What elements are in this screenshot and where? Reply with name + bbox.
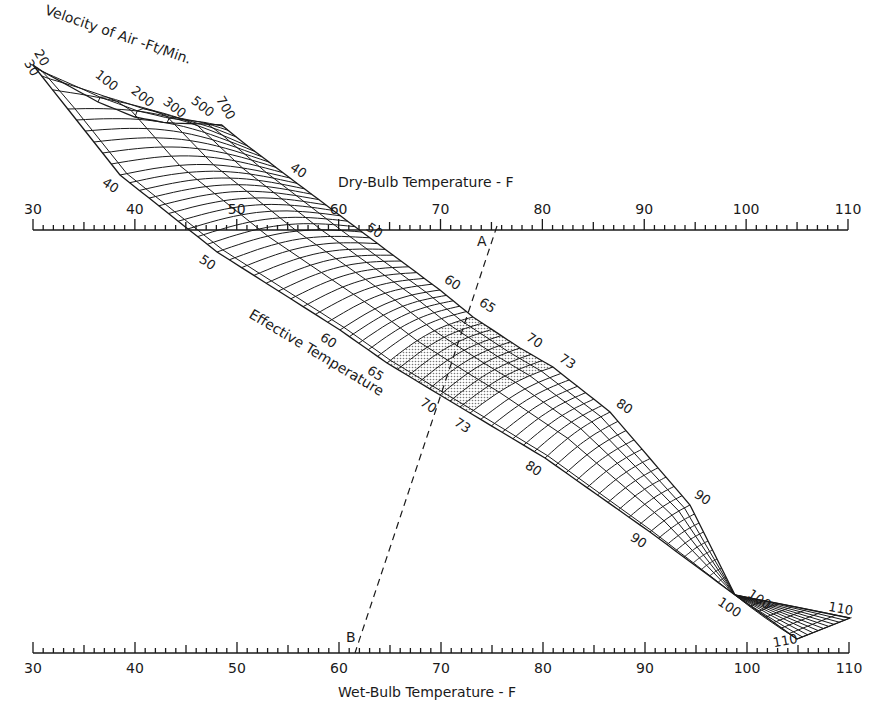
- et-label-ext-lower: 110: [772, 631, 799, 650]
- et-label-upper: 65: [476, 294, 498, 316]
- dry-bulb-axis-tick-label: 100: [733, 201, 760, 217]
- dry-bulb-axis-title: Dry-Bulb Temperature - F: [338, 174, 514, 190]
- wet-bulb-axis-title: Wet-Bulb Temperature - F: [338, 684, 516, 700]
- et-label-lower: 80: [522, 457, 544, 479]
- effective-temperature-title: Effective Temperature: [246, 306, 386, 399]
- effective-temperature-line: [577, 440, 635, 480]
- velocity-axis-title: Velocity of Air -Ft/Min.: [43, 2, 193, 67]
- effective-temperature-line: [556, 421, 619, 465]
- et-label-lower: 40: [99, 174, 121, 196]
- wet-bulb-axis-tick-label: 40: [126, 660, 144, 676]
- effective-temperature-line: [149, 185, 312, 198]
- et-label-upper: 80: [613, 395, 635, 417]
- wet-bulb-axis-tick-label: 110: [836, 660, 863, 676]
- example-dashed-line: [355, 226, 497, 653]
- et-label-lower: 73: [451, 414, 473, 436]
- et-label-upper: 70: [523, 329, 545, 351]
- et-label-upper: 90: [691, 486, 713, 508]
- et-label-upper: 73: [556, 350, 578, 372]
- effective-temperature-line: [33, 65, 222, 125]
- comfort-zone-area: [387, 317, 553, 413]
- comfort-zone-shading: [387, 317, 553, 413]
- point-a-label: A: [477, 233, 487, 249]
- et-label-ext-upper: 110: [827, 599, 854, 618]
- et-label-lower: 70: [417, 394, 439, 416]
- effective-temperature-nomogram: 3040506070809010011030405060708090100110…: [0, 0, 882, 720]
- et-label-lower: 50: [196, 251, 218, 273]
- dry-bulb-axis-tick-label: 60: [330, 201, 348, 217]
- dry-bulb-axis-tick-label: 90: [635, 201, 653, 217]
- wet-bulb-axis-tick-label: 30: [24, 660, 42, 676]
- effective-temperature-line: [619, 477, 667, 510]
- velocity-label: 500: [188, 93, 217, 120]
- effective-temperature-line: [629, 486, 674, 517]
- et-label-lower: 90: [627, 529, 649, 551]
- wet-bulb-axis-tick-label: 70: [432, 660, 450, 676]
- dry-bulb-axis-tick-label: 80: [533, 201, 551, 217]
- wet-bulb-axis-tick-label: 80: [534, 660, 552, 676]
- wet-bulb-axis-tick-label: 90: [636, 660, 654, 676]
- point-b-label: B: [346, 629, 356, 645]
- et-label-upper: 60: [441, 271, 463, 293]
- effective-temperature-line: [566, 431, 626, 473]
- velocity-label: 100: [92, 67, 121, 94]
- velocity-label: 200: [128, 83, 157, 110]
- effective-temperature-line: [85, 128, 262, 156]
- wet-bulb-axis-tick-label: 60: [330, 660, 348, 676]
- wet-bulb-axis-tick-label: 50: [228, 660, 246, 676]
- dry-bulb-axis-tick-label: 30: [24, 201, 42, 217]
- velocity-line: [40, 70, 735, 595]
- dry-bulb-axis-tick-label: 40: [126, 201, 144, 217]
- dry-bulb-axis-tick-label: 110: [835, 201, 862, 217]
- wet-bulb-axis-tick-label: 100: [734, 660, 761, 676]
- dry-bulb-axis-tick-label: 70: [432, 201, 450, 217]
- dry-bulb-axis-tick-label: 50: [228, 201, 246, 217]
